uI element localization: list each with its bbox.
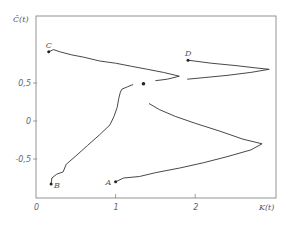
start-point-A (114, 180, 117, 183)
trajectory-D (187, 60, 269, 79)
x-tick-label: 1 (114, 203, 119, 212)
series-group (47, 50, 269, 186)
y-tick-label: -0,5 (15, 155, 31, 164)
axis-tick-labels: 0120,50-0,5 (15, 79, 198, 212)
x-tick-label: 2 (193, 203, 198, 212)
x-tick-label: 0 (34, 203, 39, 212)
center-marker-point (142, 82, 146, 86)
y-tick-label: 0 (26, 117, 31, 126)
point-label-A: A (105, 178, 112, 187)
y-axis-label: Ĉ(t) (13, 15, 29, 24)
trajectory-C (49, 50, 180, 81)
trajectory-B (51, 85, 133, 185)
start-point-B (50, 183, 53, 186)
plot-frame (36, 16, 276, 198)
start-point-D (187, 59, 190, 62)
point-label-C: C (46, 41, 52, 50)
start-point-C (47, 50, 50, 53)
trajectory-A (116, 104, 263, 182)
point-label-B: B (53, 181, 60, 190)
point-label-D: D (184, 49, 192, 58)
chart: 0120,50-0,5 Ĉ(t) K(t) ABCD (0, 0, 292, 225)
x-axis-label: K(t) (258, 203, 274, 212)
point-labels: ABCD (46, 41, 192, 190)
y-tick-label: 0,5 (18, 79, 31, 88)
